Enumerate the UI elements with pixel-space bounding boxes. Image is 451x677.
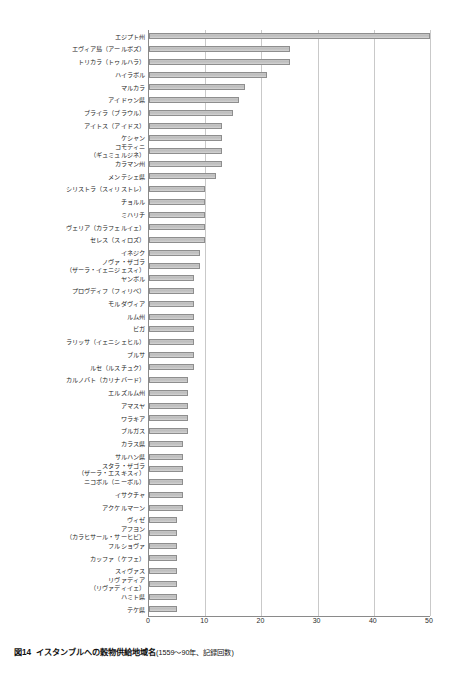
bar [149,492,183,498]
category-label: イサクチャ [115,491,150,499]
x-tick-label-40: 40 [369,617,377,624]
bar [149,72,267,78]
category-label: メンテシェ県 [108,173,149,181]
bar-row: チョルル [149,196,430,209]
figure-caption: 図14イスタンブルへの穀物供給地域名(1559～90年、記録回数) [14,645,439,657]
bar [149,288,194,294]
bar [149,364,194,370]
bar-row: カラス県 [149,438,430,451]
bar [149,479,183,485]
bar-row: ヴィゼ [149,514,430,527]
bar [149,403,188,409]
bar-row: イサクチャ [149,488,430,501]
category-label: ケシャン [121,134,149,142]
figure-title: イスタンブルへの穀物供給地域名 [36,648,156,657]
category-label: ミハリチ [121,211,149,219]
x-tick-label-0: 0 [146,617,150,624]
bar-row: ブライラ（ブラウル） [149,106,430,119]
bar-row: ヤンボル [149,272,430,285]
bar-row: ミハリチ [149,208,430,221]
figure-container: エジプト州エヴィア島（アールボズ）トリカラ（トゥルハラ）ハイラボルマルカラアイド… [0,0,451,677]
bar [149,505,183,511]
bar-row: カルノバト（カリナバード） [149,374,430,387]
bar [149,33,430,39]
category-label: ラリッサ（イェニシェヒル） [66,338,149,346]
category-label: アクケルマーン [102,504,149,512]
x-tick-label-30: 30 [313,617,321,624]
bar-row: ラリッサ（イェニシェヒル） [149,336,430,349]
category-label: ヤンボル [121,275,149,283]
bar-row: ニコボル（ニーボル） [149,476,430,489]
bar [149,530,177,536]
bar-row: ルム州 [149,310,430,323]
category-label: ルム州 [127,313,149,321]
bar [149,135,222,141]
category-label: マルカラ [121,84,149,92]
bar-rows: エジプト州エヴィア島（アールボズ）トリカラ（トゥルハラ）ハイラボルマルカラアイド… [149,30,430,616]
category-label: ブルガス [121,427,149,435]
bar [149,97,239,103]
category-label: チョルル [121,198,149,206]
bar-row: スタラ・ザゴラ （ザーラ・エスキスィ） [149,463,430,476]
x-tick-label-50: 50 [425,617,433,624]
bar-row: ブルサ [149,348,430,361]
category-label: アフヨン （カラヒサール・サーヒビ） [66,525,149,540]
bar [149,173,216,179]
bar [149,148,222,154]
bar-row: トリカラ（トゥルハラ） [149,55,430,68]
bar [149,568,177,574]
bar-row: ビガ [149,323,430,336]
category-label: カルノバト（カリナバード） [66,376,149,384]
bar-row: ケシャン [149,132,430,145]
category-label: エルズルム州 [108,389,149,397]
bar-row: ハイラボル [149,68,430,81]
category-label: サルハン県 [115,453,150,461]
x-tick-label-20: 20 [256,617,264,624]
bar-row: リヴァディア （リヴァディイェ） [149,578,430,591]
category-label: ニコボル（ニーボル） [84,478,149,486]
bar-row: フルショヴァ [149,539,430,552]
bar [149,84,245,90]
bar [149,466,183,472]
category-label: ヴェリア（カラフェルイェ） [66,224,149,232]
bar-row: ブルガス [149,425,430,438]
bar-row: コモティニ （ギュミュルジネ） [149,145,430,158]
chart-area: エジプト州エヴィア島（アールボズ）トリカラ（トゥルハラ）ハイラボルマルカラアイド… [0,30,451,616]
category-label: スィヴァス [115,567,150,575]
bar [149,186,205,192]
category-label: エヴィア島（アールボズ） [72,45,149,53]
bar [149,123,222,129]
bar-row: テケ県 [149,603,430,616]
bar-row: エヴィア島（アールボズ） [149,43,430,56]
bar-row: アフヨン （カラヒサール・サーヒビ） [149,527,430,540]
x-tick-label-10: 10 [200,617,208,624]
bar [149,352,194,358]
figure-subtitle: (1559～90年、記録回数) [156,648,234,657]
bar-row: シリストラ（スィリストレ） [149,183,430,196]
category-label: ブルサ [127,351,149,359]
bar [149,555,177,561]
bar [149,581,177,587]
bar-row: サルハン県 [149,450,430,463]
bar [149,543,177,549]
category-label: イネジク [121,249,149,257]
bar-row: アマスヤ [149,399,430,412]
bar [149,301,194,307]
bar-row: メンテシェ県 [149,170,430,183]
bar-row: イネジク [149,246,430,259]
bar [149,212,205,218]
bar [149,428,188,434]
category-label: リヴァディア （リヴァディイェ） [90,576,149,591]
bar [149,275,194,281]
bar-row: モルダヴィア [149,297,430,310]
category-label: カラス県 [121,440,149,448]
category-label: フルショヴァ [108,542,149,550]
bar [149,441,183,447]
plot-region: エジプト州エヴィア島（アールボズ）トリカラ（トゥルハラ）ハイラボルマルカラアイド… [148,30,430,617]
bar-row: ハミト県 [149,590,430,603]
category-label: ブライラ（ブラウル） [84,109,149,117]
bar-row: エジプト州 [149,30,430,43]
bar-row: ノヴァ・ザゴラ （ザーラ・イェニジェスィ） [149,259,430,272]
bar [149,199,205,205]
category-label: ノヴァ・ザゴラ （ザーラ・イェニジェスィ） [66,258,149,273]
